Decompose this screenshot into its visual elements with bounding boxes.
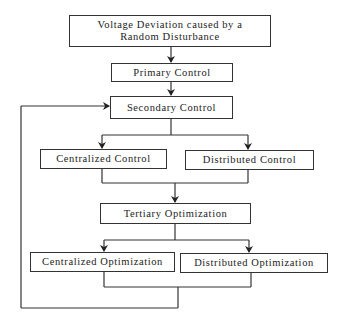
node-tertiary-optimization: Tertiary Optimization — [100, 203, 251, 224]
node-centralized-optimization: Centralized Optimization — [30, 252, 175, 272]
node-secondary-control: Secondary Control — [110, 96, 233, 119]
node-distributed-optimization: Distributed Optimization — [180, 253, 328, 273]
node-centralized-optimization-label: Centralized Optimization — [42, 256, 163, 268]
node-voltage-deviation-line2: Random Disturbance — [120, 31, 220, 43]
node-primary-control-label: Primary Control — [133, 67, 211, 79]
node-distributed-control-label: Distributed Control — [203, 154, 296, 166]
node-voltage-deviation: Voltage Deviation caused by a Random Dis… — [69, 15, 271, 47]
node-centralized-control-label: Centralized Control — [56, 153, 151, 165]
node-voltage-deviation-line1: Voltage Deviation caused by a — [98, 19, 243, 31]
node-distributed-optimization-label: Distributed Optimization — [194, 257, 314, 269]
node-distributed-control: Distributed Control — [185, 150, 314, 170]
node-tertiary-optimization-label: Tertiary Optimization — [124, 208, 228, 220]
node-centralized-control: Centralized Control — [40, 149, 167, 169]
node-primary-control: Primary Control — [111, 63, 233, 82]
node-secondary-control-label: Secondary Control — [127, 102, 216, 114]
